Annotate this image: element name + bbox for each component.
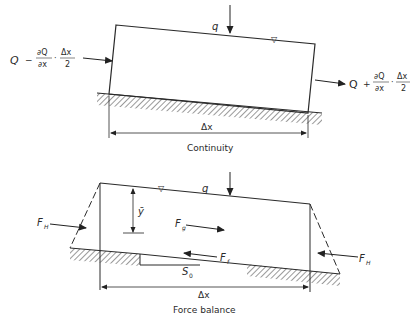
- outflow-label: Q + ∂Q ∂x · Δx 2: [349, 72, 410, 93]
- diagram-canvas: q ▽ Q − ∂Q ∂x · Δx 2 Q + ∂Q ∂x · Δx 2 Δx…: [0, 0, 420, 323]
- svg-text:∂x: ∂x: [375, 84, 384, 93]
- continuity-diagram: q ▽: [83, 5, 345, 138]
- svg-text:H: H: [366, 259, 371, 266]
- svg-text:f: f: [227, 258, 230, 265]
- channel-bed-hatch: [97, 93, 322, 125]
- hydrostatic-force-right-label: F H: [359, 253, 371, 266]
- svg-text:2: 2: [401, 84, 406, 93]
- svg-text:F: F: [37, 217, 43, 228]
- svg-text:∂Q: ∂Q: [374, 72, 384, 81]
- svg-text:∂x: ∂x: [38, 60, 47, 69]
- friction-force-arrow: [184, 253, 217, 257]
- friction-force-label: F f: [220, 252, 230, 265]
- centroid-depth-label: ȳ: [137, 206, 145, 217]
- svg-text:g: g: [182, 224, 186, 232]
- svg-text:2: 2: [65, 60, 70, 69]
- svg-text:Q: Q: [10, 54, 19, 67]
- svg-text:H: H: [44, 223, 49, 230]
- svg-text:·: ·: [54, 54, 57, 63]
- hydrostatic-force-right-arrow: [318, 253, 358, 257]
- svg-text:F: F: [359, 253, 365, 264]
- force-balance-length-label: Δx: [198, 290, 210, 300]
- lateral-inflow-label: q: [202, 183, 208, 194]
- svg-text:Δx: Δx: [397, 72, 407, 81]
- water-surface-icon: ▽: [271, 35, 278, 44]
- hydrostatic-force-left-label: F H: [37, 217, 49, 230]
- svg-text:−: −: [25, 55, 33, 65]
- svg-text:·: ·: [391, 78, 394, 87]
- svg-text:+: +: [363, 79, 371, 89]
- pressure-diagram-right: [310, 204, 340, 274]
- force-balance-diagram: q ▽: [50, 172, 358, 292]
- svg-text:F: F: [175, 218, 181, 229]
- gravity-force-label: F g: [175, 218, 186, 232]
- lateral-inflow-label: q: [212, 21, 218, 32]
- gravity-force-arrow: [186, 225, 224, 230]
- pressure-diagram-left: [70, 183, 100, 248]
- outflow-arrow: [315, 80, 345, 84]
- inflow-arrow: [83, 58, 112, 61]
- continuity-caption: Continuity: [187, 143, 234, 153]
- svg-text:S: S: [182, 266, 189, 277]
- force-balance-caption: Force balance: [173, 305, 236, 315]
- water-surface-icon: ▽: [158, 184, 165, 193]
- svg-text:∂Q: ∂Q: [37, 48, 47, 57]
- bed-slope-label: S 0: [182, 266, 193, 279]
- svg-text:Δx: Δx: [61, 48, 71, 57]
- inflow-label: Q − ∂Q ∂x · Δx 2: [10, 48, 75, 69]
- continuity-length-label: Δx: [201, 122, 213, 132]
- svg-text:0: 0: [189, 272, 193, 279]
- svg-text:Q: Q: [349, 78, 358, 91]
- svg-text:F: F: [220, 252, 226, 263]
- bed-hatch-right: [247, 264, 340, 286]
